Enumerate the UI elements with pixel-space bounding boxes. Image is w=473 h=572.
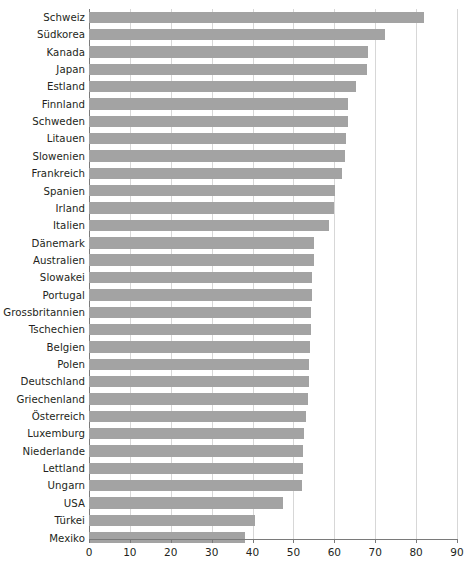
category-label: Finnland: [0, 96, 85, 113]
category-label: Ungarn: [0, 477, 85, 494]
x-tick-label: 10: [110, 546, 150, 558]
bar-row: [89, 477, 457, 494]
category-label: Italien: [0, 217, 85, 234]
category-axis-labels: SchweizSüdkoreaKanadaJapanEstlandFinnlan…: [0, 9, 85, 539]
bar-row: [89, 148, 457, 165]
x-tick-label: 40: [233, 546, 273, 558]
bar: [89, 463, 303, 474]
bar: [89, 445, 303, 456]
bar: [89, 411, 306, 422]
category-label: Litauen: [0, 130, 85, 147]
category-label: Spanien: [0, 183, 85, 200]
bar-row: [89, 113, 457, 130]
bar: [89, 12, 424, 23]
bar: [89, 98, 348, 109]
plot-area: [89, 9, 457, 539]
x-tick-70: [375, 539, 376, 543]
bar: [89, 254, 314, 265]
bar-row: [89, 287, 457, 304]
bar-row: [89, 44, 457, 61]
bar-row: [89, 443, 457, 460]
x-tick-20: [171, 539, 172, 543]
bar: [89, 289, 312, 300]
category-label: Türkei: [0, 512, 85, 529]
bar: [89, 272, 312, 283]
bar-row: [89, 460, 457, 477]
category-label: Slowenien: [0, 148, 85, 165]
category-label: Irland: [0, 200, 85, 217]
category-label: Australien: [0, 252, 85, 269]
bar: [89, 64, 367, 75]
bar-row: [89, 26, 457, 43]
x-tick-50: [293, 539, 294, 543]
x-tick-label: 70: [355, 546, 395, 558]
bar: [89, 497, 283, 508]
category-label: Slowakei: [0, 269, 85, 286]
bar-row: [89, 373, 457, 390]
bar: [89, 168, 342, 179]
bar: [89, 307, 311, 318]
x-tick-30: [212, 539, 213, 543]
category-label: Luxemburg: [0, 425, 85, 442]
bar-row: [89, 96, 457, 113]
x-tick-10: [130, 539, 131, 543]
category-label: Frankreich: [0, 165, 85, 182]
bar-row: [89, 252, 457, 269]
bar: [89, 133, 346, 144]
x-tick-label: 30: [192, 546, 232, 558]
bar-chart: SchweizSüdkoreaKanadaJapanEstlandFinnlan…: [0, 0, 473, 572]
bar-rows: [89, 9, 457, 539]
category-label: Grossbritannien: [0, 304, 85, 321]
x-tick-90: [457, 539, 458, 543]
category-label: Lettland: [0, 460, 85, 477]
category-label: Belgien: [0, 339, 85, 356]
bar: [89, 359, 309, 370]
bar-row: [89, 61, 457, 78]
bar-row: [89, 269, 457, 286]
bar: [89, 237, 314, 248]
category-label: Deutschland: [0, 373, 85, 390]
bar: [89, 480, 302, 491]
category-label: Südkorea: [0, 26, 85, 43]
bar: [89, 185, 335, 196]
bar-row: [89, 408, 457, 425]
category-label: Mexiko: [0, 530, 85, 547]
bar: [89, 202, 334, 213]
category-label: Schweiz: [0, 9, 85, 26]
bar: [89, 428, 304, 439]
bar-row: [89, 356, 457, 373]
bar: [89, 376, 309, 387]
category-label: Japan: [0, 61, 85, 78]
bar-row: [89, 183, 457, 200]
category-label: Tschechien: [0, 321, 85, 338]
bar-row: [89, 165, 457, 182]
x-tick-label: 0: [69, 546, 109, 558]
bar-row: [89, 235, 457, 252]
bar: [89, 150, 345, 161]
bar-row: [89, 321, 457, 338]
bar: [89, 29, 385, 40]
bar-row: [89, 200, 457, 217]
bar: [89, 393, 308, 404]
bar-row: [89, 78, 457, 95]
category-label: Niederlande: [0, 443, 85, 460]
bar: [89, 46, 368, 57]
category-label: Estland: [0, 78, 85, 95]
x-axis-line: [89, 539, 457, 540]
bar-row: [89, 391, 457, 408]
category-label: Griechenland: [0, 391, 85, 408]
bar: [89, 116, 348, 127]
bar-row: [89, 217, 457, 234]
bar: [89, 81, 356, 92]
category-label: Schweden: [0, 113, 85, 130]
x-tick-0: [89, 539, 90, 543]
category-label: Portugal: [0, 287, 85, 304]
bar-row: [89, 9, 457, 26]
x-tick-60: [334, 539, 335, 543]
bar-row: [89, 130, 457, 147]
bar: [89, 341, 310, 352]
category-label: Österreich: [0, 408, 85, 425]
bar: [89, 532, 245, 543]
bar-row: [89, 512, 457, 529]
bar-row: [89, 304, 457, 321]
